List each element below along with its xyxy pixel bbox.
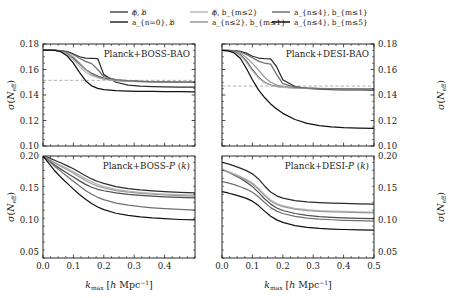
curve-bottom-right-5	[222, 192, 374, 231]
y-tick-label: 0.10	[20, 215, 39, 225]
curve-bottom-right-3	[222, 170, 374, 213]
y-tick-label: 0.10	[378, 215, 397, 225]
panel-top-left: 0.100.120.140.160.18Planck+BOSS-BAO	[20, 39, 195, 151]
y-tick-label: 0.14	[20, 90, 40, 100]
legend-label-an4-bm1: a_{n≤4}, b_{m≤1}	[294, 8, 368, 17]
y-tick-label: 0.16	[20, 65, 39, 75]
y-tick-label: 0.05	[378, 247, 397, 257]
curves-group	[222, 50, 374, 128]
panel-bottom-left: 0.050.100.150.200.00.10.20.30.4Planck+BO…	[20, 151, 195, 271]
x-tick-label: 0.4	[158, 261, 172, 271]
panel-title-bottom-left: Planck+BOSS-P (k)	[103, 161, 190, 171]
x-axis-title-left: kmax [h Mpc−1]	[85, 279, 152, 291]
panel-title-top-left: Planck+BOSS-BAO	[104, 49, 190, 59]
panel-frame	[222, 156, 374, 258]
x-tick-label: 0.0	[36, 261, 50, 271]
x-axis-title-right: kmax [h Mpc−1]	[264, 279, 331, 291]
figure-root: ϕ̸, b̸a_{n=0}, b̸ϕ̸, b_{m≤2}a_{n≤2}, b_{…	[0, 0, 454, 298]
y-tick-label: 0.20	[20, 151, 39, 161]
panel-bottom-right: 0.050.100.150.200.00.10.20.30.40.5Planck…	[215, 151, 397, 271]
x-tick-label: 0.4	[337, 261, 351, 271]
curves-group	[222, 162, 374, 230]
legend-label-an0-nob: a_{n=0}, b̸	[132, 18, 175, 27]
curve-bottom-right-2	[222, 169, 374, 212]
panel-top-right: 0.100.120.140.160.18Planck+DESI-BAO	[222, 39, 398, 151]
legend-entry-nophi-bm2: ϕ̸, b_{m≤2}	[190, 8, 257, 17]
legend-label-nophi-nob: ϕ̸, b̸	[131, 8, 147, 17]
x-tick-label: 0.2	[97, 261, 111, 271]
panel-title-bottom-right: Planck+DESI-P (k)	[285, 161, 369, 171]
y-tick-label: 0.05	[20, 247, 39, 257]
y-axis-title-bottom-right: σ(Neff)	[435, 192, 447, 222]
y-tick-label: 0.16	[378, 65, 397, 75]
legend-entry-an2-bm1: a_{n≤2}, b_{m≤1}	[190, 18, 286, 27]
x-tick-label: 0.5	[367, 261, 381, 271]
x-tick-label: 0.3	[127, 261, 141, 271]
y-axis-title-bottom-left: σ(Neff)	[5, 192, 17, 222]
panel-title-top-right: Planck+DESI-BAO	[286, 49, 369, 59]
y-tick-label: 0.12	[20, 116, 39, 126]
y-tick-label: 0.20	[378, 151, 397, 161]
legend-entry-an0-nob: a_{n=0}, b̸	[110, 18, 175, 27]
legend-entry-nophi-nob: ϕ̸, b̸	[110, 8, 147, 17]
y-tick-label: 0.10	[20, 141, 39, 151]
legend-entry-an4-bm5: a_{n≤4}, b_{m≤5}	[272, 18, 368, 27]
legend-label-an4-bm5: a_{n≤4}, b_{m≤5}	[294, 18, 368, 27]
y-tick-label: 0.15	[378, 183, 397, 193]
figure-canvas: ϕ̸, b̸a_{n=0}, b̸ϕ̸, b_{m≤2}a_{n≤2}, b_{…	[0, 0, 454, 298]
y-tick-label: 0.14	[378, 90, 398, 100]
y-tick-label: 0.18	[378, 39, 397, 49]
y-axis-title-top-left: σ(Neff)	[5, 80, 17, 110]
legend-label-nophi-bm2: ϕ̸, b_{m≤2}	[211, 8, 257, 17]
x-tick-label: 0.1	[67, 261, 81, 271]
y-tick-label: 0.15	[20, 183, 39, 193]
y-axis-title-top-right: σ(Neff)	[435, 80, 447, 110]
x-tick-label: 0.3	[306, 261, 320, 271]
panel-frame	[43, 156, 195, 258]
x-tick-label: 0.2	[276, 261, 290, 271]
y-tick-label: 0.12	[378, 116, 397, 126]
legend-entry-an4-bm1: a_{n≤4}, b_{m≤1}	[272, 8, 368, 17]
x-tick-label: 0.1	[246, 261, 260, 271]
y-tick-label: 0.10	[378, 141, 397, 151]
x-tick-label: 0.0	[215, 261, 229, 271]
y-tick-label: 0.18	[20, 39, 39, 49]
panel-frame	[43, 44, 195, 146]
